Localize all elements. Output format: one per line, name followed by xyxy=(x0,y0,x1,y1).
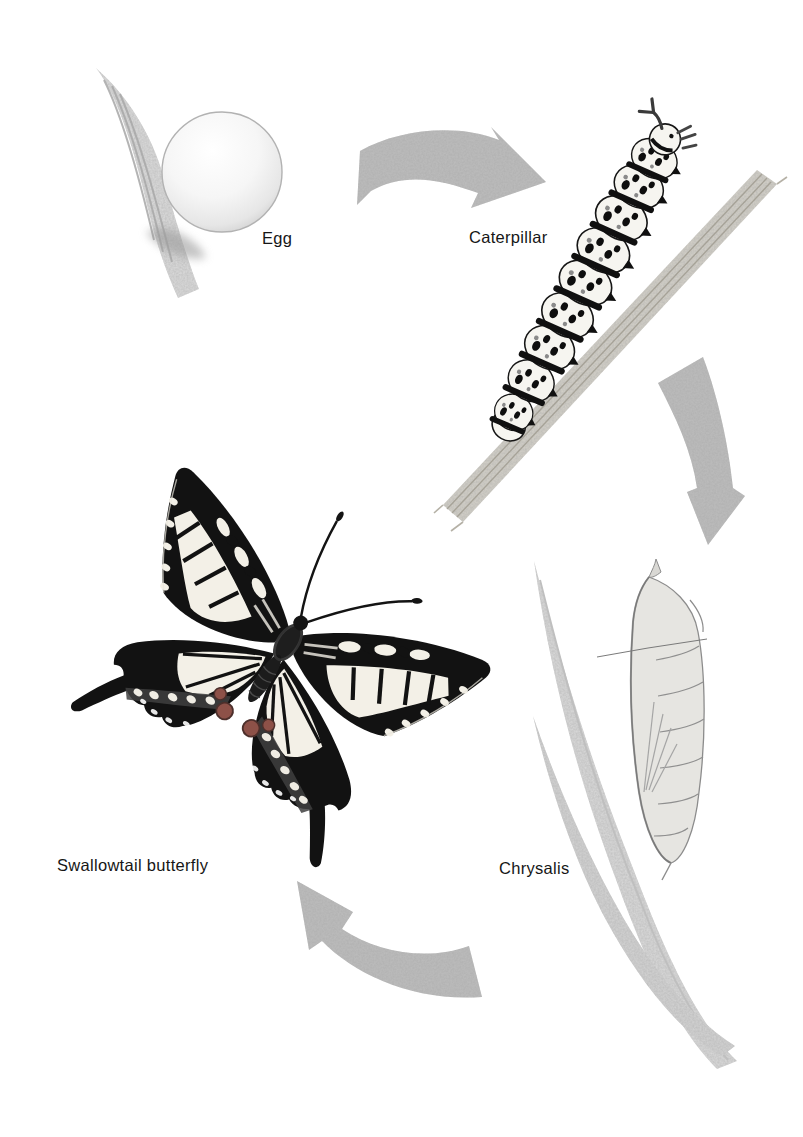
life-cycle-artwork xyxy=(0,0,803,1137)
arrow-chrysalis-to-butterfly xyxy=(297,881,482,998)
egg-icon xyxy=(162,112,282,232)
life-cycle-figure: Egg Caterpillar Chrysalis Swallowtail bu… xyxy=(0,0,803,1137)
chrysalis-illustration xyxy=(533,559,737,1069)
arrow-caterpillar-to-chrysalis xyxy=(658,357,745,545)
egg-label: Egg xyxy=(262,229,292,248)
antenna-left-icon xyxy=(280,510,362,617)
arrow-egg-to-caterpillar xyxy=(357,127,546,208)
egg-shadow xyxy=(146,228,206,259)
swallowtail-butterfly-label: Swallowtail butterfly xyxy=(57,856,208,875)
chrysalis-label: Chrysalis xyxy=(499,859,570,878)
caterpillar-label: Caterpillar xyxy=(469,228,548,247)
egg-illustration xyxy=(96,68,282,298)
butterfly-illustration xyxy=(37,424,519,889)
